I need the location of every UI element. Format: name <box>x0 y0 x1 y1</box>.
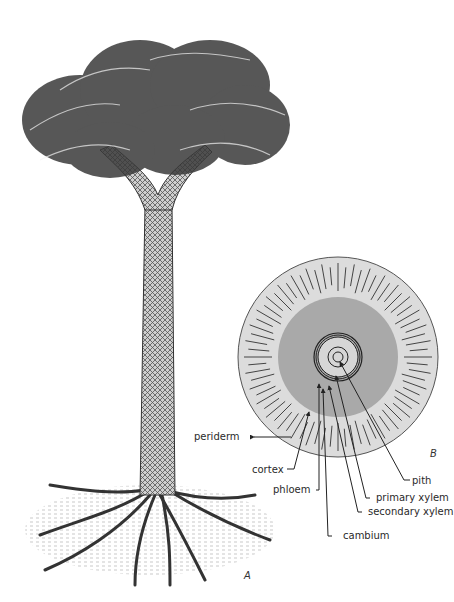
panel-label-b: B <box>430 448 437 459</box>
label-secondary-xylem: secondary xylem <box>368 507 454 517</box>
label-cortex: cortex <box>252 465 284 475</box>
label-primary-xylem: primary xylem <box>376 493 449 503</box>
label-cambium: cambium <box>343 531 390 541</box>
panel-label-a: A <box>244 570 251 581</box>
label-pith: pith <box>412 476 431 486</box>
label-phloem: phloem <box>273 485 310 495</box>
label-periderm: periderm <box>194 432 240 442</box>
